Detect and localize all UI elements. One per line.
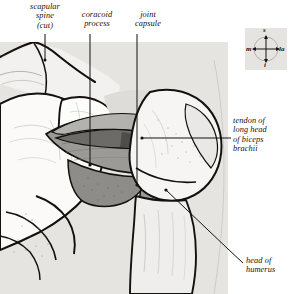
leader-dot-joint-capsule	[135, 183, 138, 186]
compass-label-superior: s	[263, 26, 266, 34]
label-head-of-humerus: head of humerus	[246, 256, 292, 275]
label-joint-capsule: joint capsule	[124, 10, 172, 29]
leader-dot-biceps-tendon	[140, 136, 143, 139]
compass-label-inferior: i	[264, 61, 266, 69]
label-coracoid-process: coracoid process	[68, 10, 126, 29]
leader-dot-scapular-spine	[44, 59, 47, 62]
label-scapular-spine: scapular spine (cut)	[14, 2, 76, 30]
leader-dot-head-of-humerus	[164, 188, 167, 191]
leader-dot-coracoid-process	[88, 163, 91, 166]
humeral-shaft	[130, 196, 196, 294]
compass-label-medial: m	[246, 45, 251, 53]
label-tendon-long-head-biceps-brachii: tendon of long head of biceps brachii	[233, 116, 291, 154]
compass-label-lateral: la	[279, 45, 284, 53]
